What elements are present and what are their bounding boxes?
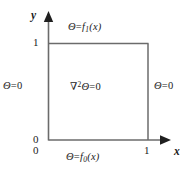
boundary-value: 0 (17, 80, 22, 91)
function-argument: (x) (89, 21, 101, 32)
y-axis-arrowhead (44, 11, 53, 22)
bottom-boundary-condition-label: Θ=f0(x) (66, 152, 100, 163)
theta-symbol: Θ (3, 80, 11, 91)
laplace-equation-diagram: Θ=f1(x) Θ=f0(x) Θ=0 Θ=0 ∇2Θ=0 1 0 0 1 y … (0, 0, 193, 178)
top-boundary-condition-label: Θ=f1(x) (68, 22, 102, 33)
governing-equation-label: ∇2Θ=0 (70, 81, 101, 93)
equation-value: 0 (95, 81, 100, 92)
function-argument: (x) (87, 151, 99, 162)
theta-symbol: Θ (68, 21, 76, 32)
x-axis-label: x (174, 146, 180, 158)
right-boundary-condition-label: Θ=0 (154, 81, 173, 92)
y-axis-tick-1: 1 (33, 37, 39, 48)
boundary-value: 0 (168, 80, 173, 91)
x-axis-tick-0: 0 (33, 145, 39, 156)
x-axis-arrowhead (160, 135, 171, 144)
nabla-icon: ∇ (70, 81, 78, 92)
left-boundary-condition-label: Θ=0 (3, 81, 22, 92)
theta-symbol: Θ (66, 151, 74, 162)
theta-symbol: Θ (154, 80, 162, 91)
x-axis-tick-1: 1 (144, 145, 150, 156)
y-axis-label: y (31, 10, 36, 22)
